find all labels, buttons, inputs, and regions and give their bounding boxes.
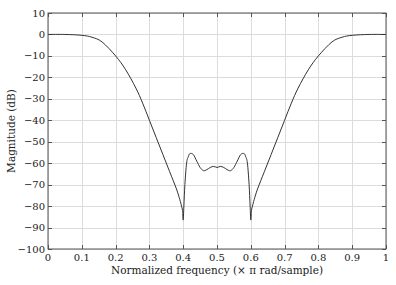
magnitude-response-chart: 00.10.20.30.40.50.60.70.80.91 100−10−20−… [0,0,396,285]
y-tick-labels: 100−10−20−30−40−50−60−70−80−90−100 [18,8,45,255]
y-tick-label: −30 [24,93,45,104]
y-tick-label: −80 [24,201,45,212]
y-tick-label: −20 [24,72,45,83]
y-tick-label: 0 [39,29,45,40]
x-tick-label: 1 [383,252,389,263]
y-tick-label: −70 [24,179,45,190]
x-tick-label: 0.9 [344,252,360,263]
x-tick-label: 0.2 [108,252,124,263]
y-tick-label: 10 [32,8,45,19]
y-tick-label: −40 [24,115,45,126]
y-tick-label: −100 [18,244,45,255]
y-tick-label: −10 [24,50,45,61]
x-tick-label: 0.1 [74,252,90,263]
x-tick-label: 0.4 [175,252,191,263]
y-tick-label: −60 [24,158,45,169]
y-tick-label: −90 [24,222,45,233]
x-tick-label: 0.8 [310,252,326,263]
x-tick-label: 0 [45,252,51,263]
x-tick-label: 0.7 [277,252,293,263]
x-axis-label: Normalized frequency (× π rad/sample) [111,264,323,276]
y-axis-label: Magnitude (dB) [5,89,17,173]
x-tick-label: 0.6 [243,252,259,263]
grid-lines [48,13,387,250]
x-tick-label: 0.3 [141,252,157,263]
x-tick-label: 0.5 [209,252,225,263]
y-tick-label: −50 [24,136,45,147]
x-tick-labels: 00.10.20.30.40.50.60.70.80.91 [45,252,389,263]
